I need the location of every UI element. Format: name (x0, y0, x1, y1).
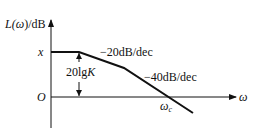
crossover-label: ωc (160, 99, 172, 114)
gain-label: 20lgK (66, 65, 96, 79)
arrow-down-head (76, 90, 82, 96)
bode-plot: L(ω)/dB x 20lgK O −20dB/dec −40dB/dec ωc… (0, 0, 253, 131)
slope1-label: −20dB/dec (100, 45, 153, 59)
origin-label: O (37, 90, 46, 104)
level-label: x (37, 45, 44, 59)
slope2-label: −40dB/dec (144, 70, 197, 84)
y-axis-label: L(ω)/dB (4, 17, 46, 31)
x-axis-label: ω (239, 90, 247, 104)
arrow-up-head (76, 53, 82, 59)
